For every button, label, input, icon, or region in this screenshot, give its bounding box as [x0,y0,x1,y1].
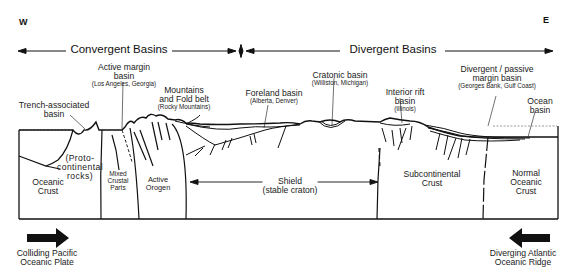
plate-arrows [27,228,550,248]
junction-symbol [239,44,243,58]
ocean-basin-label: Ocean basin [527,97,552,115]
cratonic-basin-label: Cratonic basin (Williston, Michigan) [312,71,368,87]
mixed-crust-faults [122,130,132,162]
mixed-crustal-parts-label: Mixed Crustal Parts [108,171,129,192]
passive-margin-layers [425,125,530,160]
tectonic-basin-cross-section [0,0,563,272]
foreland-basin-label: Foreland basin (Alberta, Denver) [246,89,303,105]
convergent-basins-label: Convergent Basins [67,43,170,55]
subcontinental-crust-label: Subcontinental Crust [404,170,461,188]
passive-margin-basin-label: Divergent / passive margin basin (George… [458,65,536,90]
foreland-layers [175,115,300,156]
diverging-atlantic-ridge-label: Diverging Atlantic Oceanic Ridge [490,249,556,267]
west-label: W [19,17,28,27]
colliding-pacific-plate-label: Colliding Pacific Oceanic Plate [17,249,78,267]
shield-label: Shield (stable craton) [263,177,318,195]
interior-rift [380,123,412,150]
interior-rift-basin-label: Interior rift basin (Illinois) [386,88,425,113]
divergent-basins-label: Divergent Basins [347,43,440,55]
cratonic-basin [318,121,345,128]
proto-continental-label: (Proto- continental rocks) [57,154,103,181]
east-arrow-icon [27,228,69,248]
active-margin-basin-label: Active margin basin (Los Angeles, Georgi… [92,63,156,88]
normal-oceanic-crust-label: Normal Oceanic Crust [510,169,542,196]
mountains-fold-belt-label: Mountains and Fold belt (Rocky Mountains… [158,86,211,111]
east-label: E [543,15,549,25]
active-orogen-label: Active Orogen [146,176,171,192]
trench-basin-label: Trench-associated basin [19,101,89,119]
west-arrow-icon [509,228,550,248]
